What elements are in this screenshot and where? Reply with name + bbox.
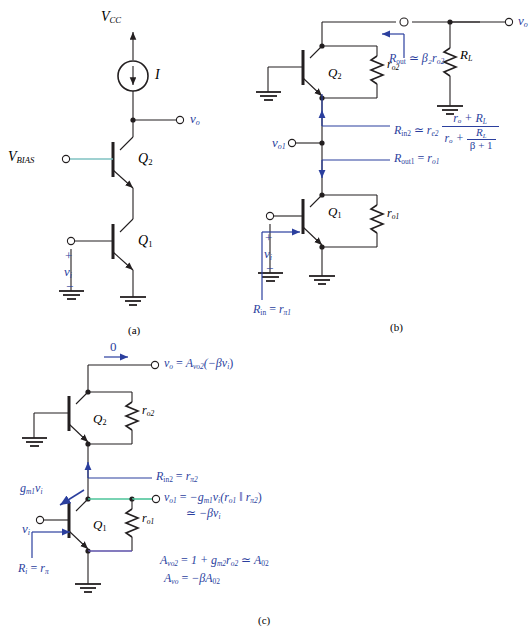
label-q2-b: Q2 (328, 66, 341, 81)
panel-c-annotations (32, 357, 152, 558)
eq-vo1-c: vo1 = −gm1vi(ro1 ‖ rπ2) (164, 491, 262, 505)
figure-root: VCC I vo VBIAS Q2 Q1 + vi − (a) vo Q2 ro… (0, 0, 529, 643)
label-q1-a: Q1 (138, 234, 152, 249)
eq-rout-b: Rout ≃ β₂ro2 (389, 52, 444, 66)
label-vcc: VCC (101, 10, 121, 25)
eq-avo2-c: Avo2 = 1 + gm2ro2 ≃ A02 (160, 554, 269, 568)
eq-avo-c: Avo = −βA02 (164, 572, 220, 586)
eq-rin-b: Rin = rπ1 (253, 303, 291, 317)
caption-a: (a) (128, 325, 140, 336)
circuit-vector-layer (0, 0, 529, 643)
label-plus-b: + (265, 231, 272, 244)
label-vo1-b: vo1 (272, 136, 286, 151)
label-minus-b: − (266, 262, 273, 275)
panel-c-circuit (22, 361, 160, 592)
label-vo-a: vo (190, 112, 200, 127)
label-plus-a: + (65, 249, 72, 262)
caption-c: (c) (258, 615, 270, 626)
label-ro1-b: ro1 (387, 207, 399, 221)
label-q1-b: Q1 (328, 205, 341, 220)
eq-rin2-c: Rin2 = rπ2 (156, 470, 198, 484)
label-current-source: I (155, 68, 160, 82)
label-minus-a: − (66, 280, 73, 293)
eq-vo1-approx-c: ≃ −βvi (186, 507, 220, 521)
eq-vo-c: vo = Avo2(−βvi) (164, 357, 233, 371)
caption-b: (b) (390, 322, 403, 333)
eq-rout1-b: Rout1 = ro1 (394, 152, 439, 166)
label-gm1vi-c: gm1vi (20, 482, 43, 496)
label-vbias: VBIAS (8, 150, 34, 165)
label-q2-a: Q2 (138, 152, 152, 167)
eq-rin2-b: Rin2 ≃ re2 rₒ + RL rₒ + RL β + 1 (394, 112, 499, 151)
eq-ri-c: Ri = rπ (18, 562, 49, 576)
label-ro2-c: ro2 (142, 404, 154, 418)
label-vi-c: vi (22, 522, 30, 537)
panel-a-circuit (59, 32, 184, 305)
label-zero-c: 0 (110, 340, 117, 353)
label-rl-b: RL (460, 48, 472, 63)
label-q2-c: Q2 (93, 412, 106, 427)
label-ro1-c: ro1 (142, 512, 154, 526)
label-q1-c: Q1 (93, 518, 106, 533)
label-vo-b: vo (518, 14, 528, 29)
